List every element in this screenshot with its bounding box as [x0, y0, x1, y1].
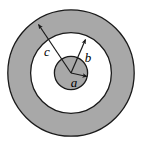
figure-container: c b a — [0, 0, 142, 148]
radius-label-b: b — [85, 50, 92, 65]
radius-label-a: a — [71, 75, 78, 90]
radius-label-c: c — [44, 44, 50, 59]
concentric-circles-diagram: c b a — [0, 0, 142, 148]
